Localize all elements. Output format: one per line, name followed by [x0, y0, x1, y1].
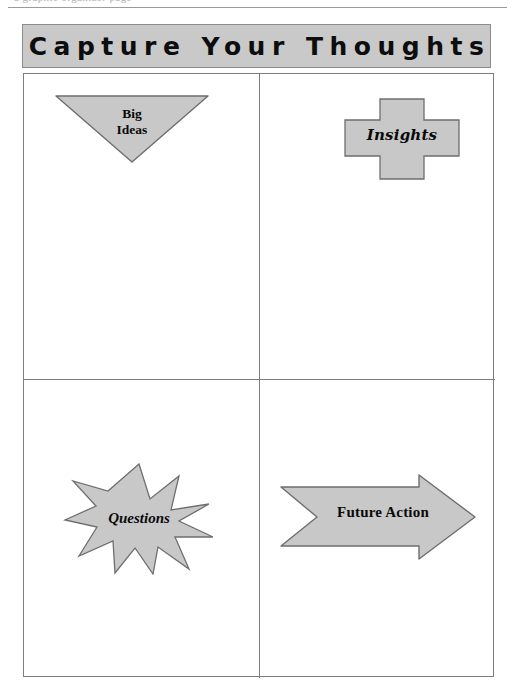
cross-icon: [344, 98, 460, 180]
insights-shape[interactable]: Insights: [344, 98, 460, 180]
quadrant-bottom-right[interactable]: Future Action: [260, 380, 495, 678]
page-title: Capture Your Thoughts: [23, 32, 491, 61]
ten-point-star-icon: [63, 463, 215, 575]
page-title-banner: Capture Your Thoughts: [22, 24, 491, 68]
quadrant-top-right[interactable]: Insights: [260, 74, 495, 379]
quadrant-bottom-left[interactable]: Questions: [24, 380, 259, 678]
questions-shape[interactable]: Questions: [63, 463, 215, 575]
page-top-cropped-text: a graphic organizer page: [0, 0, 515, 7]
page-top-cropped-text-label: a graphic organizer page: [14, 0, 132, 3]
page-horizontal-rule: [8, 7, 507, 8]
big-ideas-shape[interactable]: Big Ideas: [55, 94, 209, 164]
right-arrow-icon: [279, 474, 477, 560]
future-action-shape[interactable]: Future Action: [279, 474, 477, 560]
inverted-triangle-icon: [55, 94, 209, 164]
organizer-grid: Big Ideas Insights Questions Future Acti…: [23, 73, 494, 677]
quadrant-top-left[interactable]: Big Ideas: [24, 74, 259, 379]
